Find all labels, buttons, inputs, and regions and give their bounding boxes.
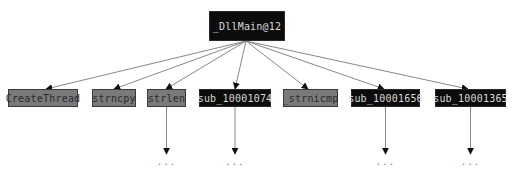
graph-node-sub-10001656[interactable]: sub_10001656 — [351, 89, 420, 107]
collapsed-children-indicator[interactable]: ... — [461, 157, 480, 167]
graph-node-strncpy[interactable]: strncpy — [92, 89, 136, 107]
graph-node-createthread[interactable]: CreateThread — [8, 89, 78, 107]
edge-root-to-c2 — [166, 41, 246, 89]
node-label: sub_10001656 — [348, 93, 423, 104]
node-label: _strnicmp — [283, 93, 339, 104]
node-label: CreateThread — [6, 93, 81, 104]
edge-root-to-c5 — [246, 41, 384, 89]
node-label: _DllMain@12 — [213, 21, 281, 32]
graph-node-root[interactable]: _DllMain@12 — [209, 11, 285, 41]
graph-node-sub-10001074[interactable]: sub_10001074 — [199, 89, 271, 107]
node-label: sub_10001074 — [198, 93, 273, 104]
node-label: sub_10001365 — [433, 93, 508, 104]
collapsed-children-indicator[interactable]: ... — [157, 157, 176, 167]
edge-root-to-c0 — [46, 41, 246, 89]
edge-root-to-c6 — [246, 41, 468, 89]
collapsed-children-indicator[interactable]: ... — [225, 157, 244, 167]
graph-node-strnicmp[interactable]: _strnicmp — [283, 89, 338, 107]
collapsed-children-indicator[interactable]: ... — [376, 157, 395, 167]
node-label: strncpy — [92, 93, 136, 104]
edge-root-to-c3 — [235, 41, 246, 89]
graph-node-sub-10001365[interactable]: sub_10001365 — [435, 89, 506, 107]
node-label: strlen — [148, 93, 185, 104]
graph-node-strlen[interactable]: strlen — [147, 89, 186, 107]
edge-root-to-c1 — [114, 41, 246, 89]
